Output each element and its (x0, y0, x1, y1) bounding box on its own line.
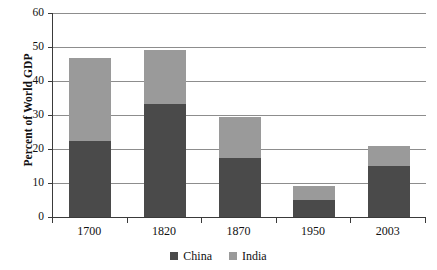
x-tick-label-1700: 1700 (54, 225, 124, 237)
bar-segment-china-1870[interactable] (219, 158, 261, 218)
y-tick-mark-40 (48, 81, 53, 82)
x-tick-mark-4 (350, 217, 351, 223)
y-tick-label-50: 50 (4, 41, 44, 53)
bar-segment-india-1820[interactable] (144, 50, 186, 103)
legend-swatch-india (229, 252, 237, 260)
y-tick-mark-20 (48, 149, 53, 150)
legend-label-india: India (242, 250, 267, 262)
bar-group-1870[interactable] (219, 13, 261, 217)
x-tick-mark-end (425, 217, 426, 223)
legend-swatch-china (170, 252, 178, 260)
x-tick-label-1950: 1950 (278, 225, 348, 237)
y-tick-label-60: 60 (4, 7, 44, 19)
y-tick-label-20: 20 (4, 143, 44, 155)
bar-group-1950[interactable] (293, 13, 335, 217)
legend-item-india: India (229, 250, 267, 262)
chart-legend: China India (0, 250, 437, 262)
x-tick-label-1820: 1820 (129, 225, 199, 237)
y-tick-mark-50 (48, 47, 53, 48)
bar-group-2003[interactable] (368, 13, 410, 217)
y-tick-label-30: 30 (4, 109, 44, 121)
bar-segment-india-1950[interactable] (293, 186, 335, 200)
bar-segment-india-2003[interactable] (368, 146, 410, 166)
y-tick-mark-10 (48, 183, 53, 184)
x-tick-mark-2 (201, 217, 202, 223)
x-tick-mark-1 (127, 217, 128, 223)
y-tick-label-0: 0 (4, 211, 44, 223)
bar-group-1700[interactable] (69, 13, 111, 217)
bar-segment-india-1700[interactable] (69, 58, 111, 140)
x-axis-line (52, 217, 426, 218)
x-tick-mark-3 (276, 217, 277, 223)
bar-group-1820[interactable] (144, 13, 186, 217)
bar-segment-china-1820[interactable] (144, 104, 186, 217)
bar-segment-china-1700[interactable] (69, 141, 111, 218)
plot-area (52, 13, 426, 217)
x-tick-label-1870: 1870 (204, 225, 274, 237)
y-tick-label-10: 10 (4, 177, 44, 189)
y-tick-mark-60 (48, 13, 53, 14)
bar-segment-india-1870[interactable] (219, 117, 261, 157)
bar-segment-china-2003[interactable] (368, 166, 410, 217)
bar-segment-china-1950[interactable] (293, 200, 335, 217)
y-tick-label-40: 40 (4, 75, 44, 87)
x-tick-label-2003: 2003 (353, 225, 423, 237)
legend-label-china: China (183, 250, 212, 262)
y-tick-mark-30 (48, 115, 53, 116)
stacked-bar-chart: Percent of World GDP China India 0102030… (0, 0, 437, 270)
x-tick-mark-0 (52, 217, 53, 223)
legend-item-china: China (170, 250, 212, 262)
